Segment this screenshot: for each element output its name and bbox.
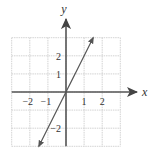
- graph: −2−11221−2 xy: [0, 0, 151, 158]
- y-tick-label: 1: [56, 69, 61, 80]
- y-tick-label: −2: [50, 123, 61, 134]
- x-tick-label: −2: [22, 96, 33, 107]
- x-tick-label: −1: [41, 96, 52, 107]
- y-tick-label: 2: [56, 51, 61, 62]
- x-tick-label: 1: [82, 96, 87, 107]
- y-axis-label: y: [60, 2, 67, 16]
- axis-labels: xy: [60, 2, 148, 99]
- x-axis-label: x: [141, 85, 148, 99]
- x-tick-label: 2: [100, 96, 105, 107]
